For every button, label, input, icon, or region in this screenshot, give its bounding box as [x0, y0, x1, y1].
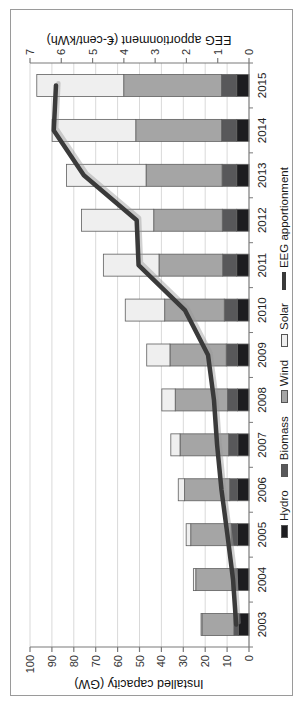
- bar-segment-hydro: [238, 524, 249, 546]
- year-label: 2003: [256, 612, 268, 638]
- chart-figure: 0102030405060708090100012345672003200420…: [0, 0, 300, 720]
- bar-segment-wind: [136, 119, 222, 141]
- year-label: 2009: [256, 342, 268, 368]
- right-axis-tick-label: 2: [180, 49, 192, 55]
- right-axis-tick-label: 4: [118, 49, 130, 55]
- year-label: 2012: [256, 207, 268, 233]
- bar-segment-solar: [81, 209, 153, 231]
- legend-label: Wind: [278, 360, 290, 386]
- year-label: 2011: [256, 253, 268, 278]
- bar-segment-wind: [202, 614, 234, 636]
- year-label: 2006: [256, 477, 268, 503]
- bar-segment-wind: [175, 389, 227, 411]
- left-axis-tick-label: 70: [90, 655, 102, 667]
- bar-segment-hydro: [238, 479, 249, 501]
- bar-segment-biomass: [229, 434, 238, 456]
- bar-segment-biomass: [222, 164, 237, 186]
- bar-segment-biomass: [222, 209, 236, 231]
- bar-segment-hydro: [238, 569, 249, 591]
- left-axis-tick-label: 20: [199, 655, 211, 667]
- right-axis-tick-label: 0: [243, 49, 255, 55]
- bar-segment-wind: [124, 74, 222, 96]
- bar-segment-hydro: [237, 254, 249, 276]
- left-axis-tick-label: 10: [221, 655, 233, 667]
- legend-item-biomass: Biomass: [278, 416, 290, 477]
- bar-segment-hydro: [237, 119, 249, 141]
- year-label: 2014: [256, 117, 268, 143]
- left-axis-tick-label: 30: [177, 655, 189, 667]
- legend-color-swatch: [281, 390, 288, 403]
- legend: HydroBiomassWindSolarEEG apportionment: [276, 9, 292, 696]
- right-axis-tick-label: 1: [212, 49, 224, 55]
- legend-label: EEG apportionment: [278, 167, 290, 268]
- year-label: 2010: [256, 297, 268, 323]
- legend-color-swatch: [281, 334, 288, 347]
- bar-segment-biomass: [223, 254, 237, 276]
- legend-label: Biomass: [278, 416, 290, 460]
- bar-segment-hydro: [237, 164, 249, 186]
- stacked-bars: [37, 74, 249, 635]
- bar-segment-wind: [196, 569, 232, 591]
- bar-segment-biomass: [224, 299, 237, 321]
- bar-segment-wind: [170, 344, 226, 366]
- legend-item-solar: Solar: [278, 303, 290, 347]
- left-axis-tick-label: 0: [243, 655, 255, 661]
- year-label: 2005: [256, 522, 268, 548]
- bar-segment-solar: [171, 434, 180, 456]
- bar-segment-solar: [162, 389, 175, 411]
- bar-segment-biomass: [222, 119, 237, 141]
- year-label: 2015: [256, 73, 268, 99]
- bar-segment-wind: [154, 209, 223, 231]
- left-axis-tick-label: 90: [46, 655, 58, 667]
- right-axis-tick-label: 7: [24, 49, 36, 55]
- legend-color-swatch: [281, 464, 288, 477]
- legend-item-hydro: Hydro: [278, 490, 290, 538]
- legend-color-swatch: [281, 525, 288, 538]
- bar-segment-solar: [147, 344, 170, 366]
- left-axis-tick-label: 100: [24, 655, 36, 673]
- right-axis-tick-label: 6: [55, 49, 67, 55]
- bar-segment-hydro: [237, 299, 249, 321]
- screenshot-root: 0102030405060708090100012345672003200420…: [0, 0, 300, 720]
- left-axis-title: Installed capacity (GW): [74, 677, 203, 691]
- legend-line-swatch: [282, 272, 286, 290]
- legend-item-eeg-apportionment: EEG apportionment: [278, 167, 290, 290]
- chart-svg: 0102030405060708090100012345672003200420…: [0, 0, 300, 720]
- bar-segment-solar: [125, 299, 164, 321]
- right-axis-title: EEG apportionment (€-cent/kWh): [47, 33, 232, 47]
- bar-segment-hydro: [238, 389, 249, 411]
- bar-segment-wind: [159, 254, 223, 276]
- bar-segment-solar: [186, 524, 191, 546]
- legend-label: Hydro: [278, 490, 290, 521]
- bar-segment-solar: [37, 74, 124, 96]
- year-label: 2007: [256, 432, 268, 458]
- bar-segment-biomass: [221, 74, 236, 96]
- bar-segment-solar: [201, 614, 202, 636]
- legend-item-wind: Wind: [278, 360, 290, 403]
- bar-segment-hydro: [237, 344, 249, 366]
- bar-segment-biomass: [230, 479, 238, 501]
- left-axis-tick-label: 40: [155, 655, 167, 667]
- right-axis-tick-label: 5: [87, 49, 99, 55]
- bar-segment-hydro: [237, 74, 249, 96]
- year-label: 2013: [256, 163, 268, 189]
- right-axis-tick-label: 3: [149, 49, 161, 55]
- left-axis-tick-label: 80: [68, 655, 80, 667]
- bar-segment-hydro: [237, 209, 249, 231]
- year-label: 2008: [256, 387, 268, 413]
- bar-segment-biomass: [228, 389, 238, 411]
- bar-segment-wind: [146, 164, 222, 186]
- left-axis-tick-label: 50: [134, 655, 146, 667]
- left-axis-tick-label: 60: [112, 655, 124, 667]
- year-label: 2004: [256, 566, 268, 592]
- bar-segment-biomass: [226, 344, 237, 366]
- bar-segment-solar: [193, 569, 195, 591]
- bar-segment-solar: [178, 479, 184, 501]
- bar-segment-hydro: [238, 434, 249, 456]
- legend-label: Solar: [278, 303, 290, 330]
